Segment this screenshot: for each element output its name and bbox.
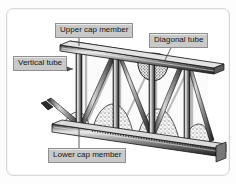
figure-canvas: Upper cap member Diagonal tube Vertical … (0, 0, 236, 184)
callout-lower-cap-member: Lower cap member (48, 148, 126, 163)
callout-diagonal-tube: Diagonal tube (149, 33, 208, 48)
callout-upper-cap-member: Upper cap member (55, 23, 133, 38)
callout-vertical-tube: Vertical tube (13, 56, 67, 71)
